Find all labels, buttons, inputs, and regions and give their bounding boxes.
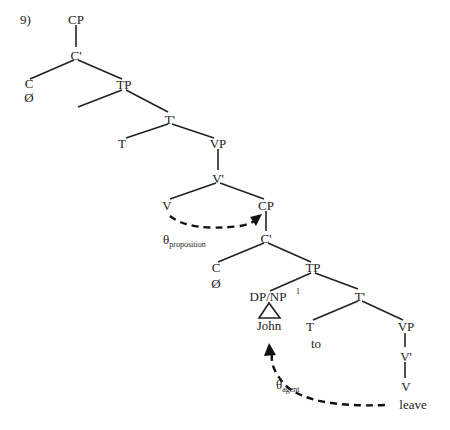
node-c-null: Ø — [24, 90, 33, 105]
node-vbar-embedded: V' — [400, 349, 412, 364]
node-c-embedded-null: Ø — [211, 276, 220, 291]
edge-tp-tbar — [126, 90, 168, 112]
node-tp-embedded: TP — [305, 260, 320, 275]
edge-tbar-t — [126, 124, 168, 138]
edge-tbar-vp — [172, 124, 214, 138]
edge-tp-empty-spec — [78, 90, 122, 107]
node-cbar-embedded: C' — [260, 231, 271, 246]
edge-cbar-tp — [78, 60, 122, 79]
agent-arrow-path — [272, 355, 385, 405]
node-cbar: C' — [70, 48, 81, 63]
node-john: John — [257, 318, 282, 333]
john-triangle — [259, 303, 280, 318]
tree-edges — [30, 25, 405, 378]
edge-vbar-v — [170, 183, 216, 199]
node-tbar-embedded: T' — [355, 289, 365, 304]
theta-proposition-arrow — [170, 214, 262, 228]
node-leave: leave — [399, 397, 427, 412]
node-t-embedded: T — [306, 319, 314, 334]
edge-cbar-c — [30, 60, 74, 79]
theta-agent-arrow — [264, 343, 385, 405]
syntax-tree: 9) CP C' C Ø TP T' T VP V' V CP C' C Ø T… — [0, 0, 450, 430]
node-vbar: V' — [212, 171, 224, 186]
node-tbar: T' — [165, 112, 175, 127]
proposition-arrow-path — [170, 216, 256, 228]
theta-role: proposition — [169, 240, 205, 249]
theta-proposition-label: θproposition — [163, 232, 206, 249]
node-c: C — [25, 76, 34, 91]
edge-tbar-vp-emb — [362, 301, 403, 320]
node-to: to — [311, 336, 321, 351]
node-vp-embedded: VP — [398, 319, 415, 334]
edge-tbar-t-emb — [313, 301, 358, 320]
agent-arrowhead-icon — [264, 343, 276, 356]
edge-vbar-cp — [220, 183, 264, 199]
edge-tp-tbar-emb — [315, 273, 358, 289]
example-number: 9) — [20, 12, 31, 27]
proposition-arrowhead-icon — [250, 214, 262, 226]
node-v-embedded: V — [401, 379, 411, 394]
node-t: T — [118, 136, 126, 151]
node-c-embedded: C — [212, 260, 221, 275]
theta-role: agent — [282, 385, 300, 394]
dpnp-index: 1 — [296, 287, 300, 296]
node-cp-embedded: CP — [258, 198, 274, 213]
node-v: V — [162, 198, 172, 213]
dpnp-label: DP/NP — [250, 289, 287, 304]
node-cp: CP — [68, 12, 84, 27]
edge-cbar-c-emb — [218, 243, 264, 262]
node-dpnp: DP/NP — [250, 289, 287, 304]
node-vp: VP — [210, 136, 227, 151]
node-tp: TP — [116, 77, 131, 92]
theta-agent-label: θagent — [276, 377, 300, 394]
